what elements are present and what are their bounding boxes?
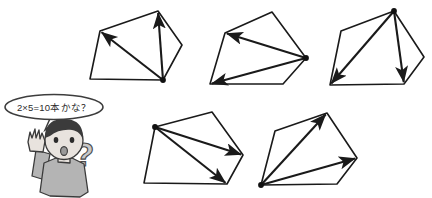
boy-right-eye <box>70 137 75 143</box>
polygon-4-diagonal-1 <box>155 127 241 154</box>
polygon-4-diagonal-2 <box>155 127 225 183</box>
speech-bubble-text: 2×5=10本かな？ <box>17 102 91 113</box>
polygon-3-outline <box>330 11 424 85</box>
character-illustration: 2×5=10本かな？ ? <box>5 95 103 198</box>
figures-layer <box>90 8 424 188</box>
polygon-1 <box>90 11 182 83</box>
polygon-2 <box>210 12 309 84</box>
boy-torso <box>40 158 88 197</box>
polygon-1-outline <box>90 11 182 80</box>
boy-mouth <box>61 147 68 156</box>
polygon-2-diagonal-1 <box>227 34 306 58</box>
polygon-2-outline <box>210 12 306 84</box>
polygon-4-outline <box>144 112 243 184</box>
polygon-4-marked-vertex <box>152 124 158 130</box>
polygon-1-diagonal-1 <box>102 32 163 80</box>
polygon-2-diagonal-2 <box>212 58 306 83</box>
polygon-3-marked-vertex <box>391 8 397 14</box>
polygon-2-marked-vertex <box>303 55 309 61</box>
polygon-diagram-scene: 2×5=10本かな？ ? <box>0 0 432 198</box>
boy-hand <box>28 129 45 152</box>
polygon-3-diagonal-2 <box>394 11 404 82</box>
polygon-3 <box>330 8 424 85</box>
polygon-1-marked-vertex <box>160 77 166 83</box>
polygon-5-diagonal-2 <box>261 159 355 185</box>
boy-left-eye <box>54 137 59 143</box>
polygon-4 <box>144 112 243 184</box>
polygon-5 <box>258 113 357 188</box>
polygon-3-diagonal-1 <box>331 11 394 83</box>
illustration-canvas: 2×5=10本かな？ ? <box>0 0 432 198</box>
polygon-1-diagonal-2 <box>158 13 163 80</box>
polygon-5-outline <box>261 113 357 185</box>
polygon-5-marked-vertex <box>258 182 264 188</box>
